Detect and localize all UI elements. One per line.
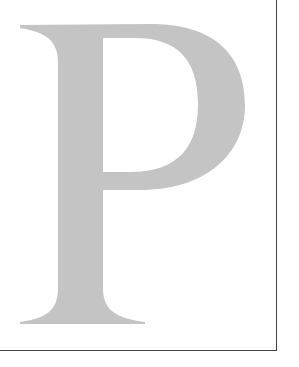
letter-p-glyph: P xyxy=(0,0,299,367)
